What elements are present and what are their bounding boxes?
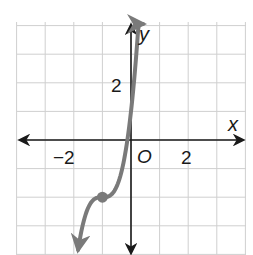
origin-label: O bbox=[137, 147, 152, 166]
x-tick-label-2: 2 bbox=[181, 148, 192, 167]
y-tick-label-2: 2 bbox=[111, 76, 122, 95]
coordinate-plane bbox=[0, 0, 253, 255]
cubic-curve bbox=[78, 24, 143, 250]
inflection-point-marker bbox=[97, 192, 108, 203]
x-axis-label: x bbox=[228, 114, 238, 134]
x-tick-label-neg2: −2 bbox=[53, 148, 75, 167]
y-axis-label: y bbox=[139, 24, 149, 44]
